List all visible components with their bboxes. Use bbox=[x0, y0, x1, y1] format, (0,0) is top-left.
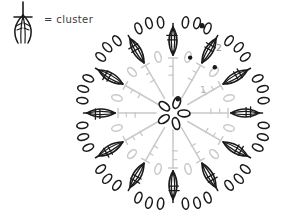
cluster-stitch bbox=[223, 68, 250, 84]
chain-stitch bbox=[154, 51, 163, 63]
slip-stitch-dot bbox=[176, 97, 180, 101]
chain-stitch bbox=[111, 124, 123, 133]
chain-stitch bbox=[77, 133, 89, 142]
double-crochet-stitch bbox=[125, 86, 158, 105]
dc-top-bar bbox=[218, 137, 223, 145]
chain-stitch bbox=[182, 16, 190, 28]
cluster-stitch bbox=[169, 171, 179, 203]
chain-stitch bbox=[76, 122, 88, 130]
dc-crossbar bbox=[146, 73, 149, 75]
chain-stitch bbox=[144, 17, 153, 29]
chain-stitch bbox=[101, 41, 113, 53]
dc-top-bar bbox=[123, 82, 128, 90]
cluster-stitch bbox=[84, 109, 116, 119]
center-chain-stitch bbox=[178, 110, 190, 117]
dc-top-bar bbox=[197, 158, 205, 163]
chain-stitch bbox=[111, 94, 123, 103]
slip-stitch-dot bbox=[188, 55, 192, 59]
chain-stitch bbox=[154, 163, 163, 175]
chain-stitch bbox=[82, 73, 95, 83]
chain-stitch bbox=[223, 94, 235, 103]
round-2-clusters-group bbox=[84, 24, 263, 203]
chain-stitch bbox=[94, 163, 107, 175]
chain-stitch bbox=[94, 51, 107, 63]
chain-stitch bbox=[133, 191, 143, 204]
round-1-group bbox=[118, 58, 228, 168]
center-chain-stitch bbox=[158, 100, 172, 113]
chain-stitch bbox=[111, 34, 123, 47]
crochet-chart-page: = cluster 1 2 bbox=[0, 0, 283, 212]
chain-stitch bbox=[126, 148, 138, 160]
dc-crossbar bbox=[212, 86, 214, 89]
chain-stitch bbox=[258, 97, 270, 105]
cluster-stitch bbox=[223, 142, 250, 158]
chain-stitch bbox=[251, 73, 264, 83]
slip-stitch-dots-group bbox=[176, 23, 217, 101]
dc-crossbar bbox=[193, 71, 196, 73]
dc-top-bar bbox=[218, 82, 223, 90]
double-crochet-stitch bbox=[188, 122, 221, 141]
double-crochet-stitch bbox=[146, 65, 165, 98]
dc-top-bar bbox=[142, 63, 150, 67]
chain-stitch bbox=[258, 122, 270, 130]
center-chain-stitch bbox=[157, 113, 171, 125]
chain-stitch bbox=[223, 179, 235, 192]
chain-stitch bbox=[257, 84, 269, 93]
slip-stitch-dot bbox=[213, 65, 217, 69]
chain-stitch bbox=[223, 34, 235, 47]
cluster-stitch bbox=[128, 35, 144, 62]
center-chain-stitch bbox=[171, 117, 181, 130]
slip-stitch-dot bbox=[199, 23, 204, 28]
dc-crossbar bbox=[196, 152, 199, 154]
chain-stitch bbox=[144, 197, 153, 209]
chain-stitch bbox=[182, 198, 190, 210]
chain-stitch bbox=[77, 84, 89, 93]
chain-stitch bbox=[101, 173, 113, 185]
double-crochet-stitch bbox=[182, 65, 201, 98]
round-2-label: 2 bbox=[216, 43, 222, 53]
double-crochet-stitch bbox=[146, 128, 165, 161]
chain-stitch bbox=[157, 198, 165, 210]
double-crochet-stitch bbox=[125, 122, 158, 141]
dc-crossbar bbox=[150, 153, 153, 155]
chain-stitch bbox=[233, 173, 245, 185]
chain-stitch bbox=[203, 191, 213, 204]
chain-stitch bbox=[257, 133, 269, 142]
chain-stitch bbox=[126, 66, 138, 78]
dc-top-bar bbox=[142, 158, 150, 163]
dc-crossbar bbox=[213, 133, 215, 136]
chain-stitch bbox=[223, 124, 235, 133]
chain-stitch bbox=[157, 16, 165, 28]
dc-top-bar bbox=[197, 63, 205, 67]
round-1-label: 1 bbox=[200, 85, 206, 95]
chain-stitch bbox=[239, 51, 252, 63]
chain-stitch bbox=[203, 22, 213, 35]
center-ring-group bbox=[157, 96, 190, 130]
dc-crossbar bbox=[133, 136, 135, 139]
chain-stitch bbox=[251, 143, 264, 153]
cluster-stitch bbox=[95, 142, 122, 158]
chain-stitch bbox=[233, 41, 245, 53]
cluster-stitch bbox=[128, 163, 144, 190]
dc-crossbar bbox=[131, 90, 133, 93]
chain-stitch bbox=[184, 163, 193, 175]
motif-diagram: 1 2 bbox=[0, 0, 283, 212]
chain-stitch bbox=[193, 197, 202, 209]
double-crochet-stitch bbox=[182, 128, 201, 161]
cluster-stitch bbox=[95, 68, 122, 84]
cluster-stitch bbox=[167, 24, 177, 56]
chain-stitch bbox=[82, 143, 95, 153]
cluster-stitch bbox=[231, 107, 263, 117]
chain-stitch bbox=[111, 179, 123, 192]
chain-stitch bbox=[208, 148, 220, 160]
dc-top-bar bbox=[123, 137, 128, 145]
cluster-stitch bbox=[202, 163, 218, 190]
chain-stitch bbox=[239, 163, 252, 175]
chain-stitch bbox=[76, 97, 88, 105]
round-2-chains-group bbox=[76, 16, 269, 209]
chain-stitch bbox=[133, 22, 143, 35]
